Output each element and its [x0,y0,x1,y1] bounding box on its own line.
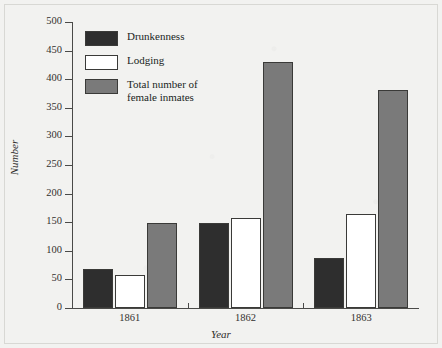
chart-legend: DrunkennessLodgingTotal number of female… [85,30,235,111]
legend-swatch [85,55,118,70]
y-axis-tick [65,308,73,309]
bar [346,214,376,308]
y-axis-tick-label-wrap: 0 [28,308,62,309]
y-axis-tick-label-wrap: 500 [28,22,62,23]
legend-item: Total number of female inmates [85,78,235,103]
y-axis-tick-label: 400 [30,73,62,84]
bar [378,90,408,308]
legend-item: Drunkenness [85,30,235,46]
legend-item: Lodging [85,54,235,70]
legend-swatch [85,79,118,94]
y-axis-tick-label-wrap: 300 [28,136,62,137]
y-axis-tick-label: 50 [30,273,62,284]
x-axis-title: Year [0,329,442,340]
y-axis-tick-label-wrap: 400 [28,79,62,80]
y-axis-tick-label: 200 [30,188,62,199]
y-axis-tick-label: 0 [30,302,62,313]
x-axis-group-label: 1863 [331,313,391,324]
y-axis-tick [65,251,73,252]
bar [314,258,344,308]
chart-figure: 050100150200250300350400450500 186118621… [0,0,442,348]
y-axis-tick [65,165,73,166]
y-axis-tick-label-wrap: 150 [28,222,62,223]
legend-label: Total number of female inmates [127,78,198,103]
y-axis-tick [65,22,73,23]
y-axis-tick [65,79,73,80]
y-axis-tick-label: 500 [30,16,62,27]
y-axis-tick [65,222,73,223]
y-axis-tick-label-wrap: 450 [28,51,62,52]
bar [147,223,177,308]
x-axis-line [72,308,419,309]
bar [115,275,145,308]
bar [83,269,113,308]
y-axis-tick-label: 100 [30,245,62,256]
x-axis-group-label: 1862 [216,313,276,324]
legend-label: Lodging [127,54,164,67]
y-axis-tick-label: 350 [30,102,62,113]
y-axis-tick-label: 450 [30,45,62,56]
y-axis-tick-label: 250 [30,159,62,170]
legend-swatch [85,31,118,46]
y-axis-tick-label-wrap: 350 [28,108,62,109]
y-axis-tick-label-wrap: 50 [28,279,62,280]
x-axis-group-label: 1861 [100,313,160,324]
y-axis-tick [65,136,73,137]
bar [199,223,229,308]
y-axis-title: Number [9,128,20,188]
y-axis-tick [65,51,73,52]
x-axis-tick [303,303,304,309]
y-axis-tick-label: 300 [30,130,62,141]
y-axis-tick [65,194,73,195]
y-axis-tick-label-wrap: 250 [28,165,62,166]
legend-label: Drunkenness [127,30,184,43]
y-axis-tick-label-wrap: 100 [28,251,62,252]
bar [231,218,261,308]
y-axis-tick [65,279,73,280]
y-axis-tick-label: 150 [30,216,62,227]
x-axis-tick [188,303,189,309]
y-axis-tick-label-wrap: 200 [28,194,62,195]
y-axis-tick [65,108,73,109]
bar [263,62,293,308]
